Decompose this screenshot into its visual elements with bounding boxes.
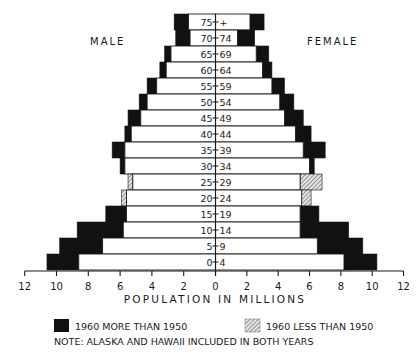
bar-male-increase [106,206,127,222]
bar-female-increase [317,238,362,254]
bar-male-increase [112,142,125,158]
bar-male-decrease [122,190,127,206]
age-label-left: 20 [200,193,212,204]
age-label-left: 65 [200,49,212,60]
age-label-right: 9 [220,241,226,252]
age-label-left: 40 [200,129,212,140]
bar-female-increase [295,126,311,142]
age-label-left: 50 [200,97,212,108]
bar-female-increase [280,94,294,110]
age-label-left: 70 [200,33,212,44]
bar-male-increase [160,62,166,78]
bar-female-decrease [302,190,311,206]
age-label-right: 64 [220,65,232,76]
bar-male-decrease [128,174,133,190]
age-label-left: 75 [200,17,212,28]
age-label-right: 29 [220,177,232,188]
age-label-right: 34 [220,161,232,172]
age-label-right: 39 [220,145,232,156]
age-label-right: + [220,17,228,28]
x-tick-label: 4 [275,281,281,292]
bar-female-increase [344,254,377,270]
age-label-right: 14 [220,225,232,236]
bar-female-increase [256,46,269,62]
bar-male-increase [128,110,141,126]
x-tick-label: 8 [338,281,344,292]
bar-female-increase [303,142,325,158]
bar-female-increase [300,222,349,238]
bar-male-increase [125,126,131,142]
bar-male-increase [77,222,123,238]
age-label-right: 54 [220,97,232,108]
bar-male-increase [176,30,190,46]
bar-male-base [79,254,216,270]
x-axis-title: POPULATION IN MILLIONS [124,293,306,305]
male-label: MALE [90,36,125,47]
legend-swatch-increase [54,319,69,332]
bar-female-increase [263,62,272,78]
x-tick-label: 6 [117,281,123,292]
age-label-right: 44 [220,129,232,140]
bar-female-increase [284,110,303,126]
bar-female-increase [310,158,315,174]
chart-note: NOTE: ALASKA AND HAWAII INCLUDED IN BOTH… [54,336,313,347]
age-label-left: 15 [200,209,212,220]
bar-male-increase [120,158,125,174]
x-tick-label: 10 [50,281,63,292]
x-tick-label: 6 [306,281,312,292]
x-tick-label: 8 [85,281,91,292]
bar-female-decrease [300,174,322,190]
female-label: FEMALE [307,36,358,47]
legend-label-increase: 1960 MORE THAN 1950 [75,321,187,332]
bar-female-increase [272,78,285,94]
legend-swatch-decrease [245,319,260,332]
age-label-left: 55 [200,81,212,92]
x-tick-label: 10 [366,281,379,292]
age-label-right: 24 [220,193,232,204]
bar-male-increase [139,94,147,110]
x-tick-label: 12 [18,281,31,292]
x-tick-label: 0 [212,281,218,292]
bar-male-increase [174,14,188,30]
bar-male-base [103,238,216,254]
age-label-left: 0 [206,257,212,268]
age-label-left: 30 [200,161,212,172]
bar-female-base [216,238,318,254]
age-label-left: 5 [206,241,212,252]
age-label-right: 49 [220,113,232,124]
bar-male-increase [147,78,157,94]
bar-male-increase [165,46,171,62]
x-ticks-group: 12108642024681012 [18,271,410,292]
bar-female-base [216,254,344,270]
age-label-right: 74 [220,33,232,44]
x-tick-label: 2 [181,281,187,292]
bar-male-increase [47,254,79,270]
age-label-right: 69 [220,49,232,60]
age-label-right: 4 [220,257,226,268]
legend-label-decrease: 1960 LESS THAN 1950 [266,321,373,332]
x-tick-label: 4 [149,281,155,292]
age-label-left: 35 [200,145,212,156]
x-tick-label: 2 [244,281,250,292]
legend: 1960 MORE THAN 1950 1960 LESS THAN 1950 [54,319,373,332]
bar-male-increase [60,238,103,254]
age-label-right: 19 [220,209,232,220]
population-pyramid-chart: 75+7074656960645559505445494044353930342… [0,0,419,356]
age-label-left: 45 [200,113,212,124]
bar-female-increase [250,14,264,30]
bar-female-increase [237,30,254,46]
age-label-left: 60 [200,65,212,76]
age-label-left: 25 [200,177,212,188]
bar-female-increase [300,206,319,222]
age-label-left: 10 [200,225,212,236]
x-tick-label: 12 [397,281,410,292]
age-label-right: 59 [220,81,232,92]
